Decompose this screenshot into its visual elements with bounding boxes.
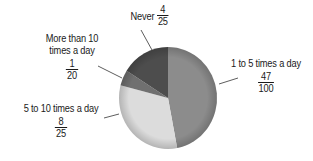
fraction-denominator: 25 [55,127,67,139]
fraction-numerator: 47 [260,71,272,82]
label-5-to-10-text: 5 to 10 times a day [24,102,99,114]
fraction-never: 4 25 [157,4,169,27]
fraction-denominator: 100 [258,82,275,94]
label-more-than-10: More than 10 times a day 1 20 [44,32,100,81]
leader-line-never [141,30,152,50]
label-more-than-10-line1: More than 10 [46,32,98,44]
label-1-to-5: 1 to 5 times a day 47 100 [229,57,303,94]
label-1-to-5-text: 1 to 5 times a day [231,57,301,69]
label-5-to-10: 5 to 10 times a day 8 25 [20,102,103,139]
label-never-text: Never [131,10,155,22]
fraction-more-than-10: 1 20 [66,58,78,81]
pie-shading [119,47,217,149]
fraction-denominator: 20 [66,69,78,81]
fraction-numerator: 1 [69,58,76,69]
fraction-numerator: 8 [58,116,65,127]
fraction-numerator: 4 [159,4,166,15]
leader-line-more-than-10 [98,66,122,78]
label-never: Never 4 25 [131,4,169,27]
leader-line-5-to-10 [104,114,119,118]
fraction-denominator: 25 [157,15,169,27]
label-more-than-10-line2: times a day [49,44,94,56]
fraction-1-to-5: 47 100 [258,71,275,94]
fraction-5-to-10: 8 25 [55,116,67,139]
